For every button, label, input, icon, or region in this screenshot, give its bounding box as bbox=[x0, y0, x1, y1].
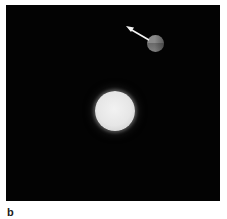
panel-label: b bbox=[7, 206, 14, 218]
figure: b bbox=[0, 0, 227, 219]
planet-shading bbox=[147, 35, 164, 52]
space-panel bbox=[6, 5, 220, 201]
planet bbox=[147, 35, 164, 52]
central-star bbox=[95, 91, 135, 131]
